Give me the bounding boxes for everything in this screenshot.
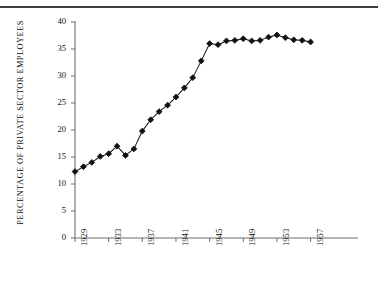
y-tick-label: 35 bbox=[44, 43, 66, 53]
x-tick-label: 1949 bbox=[247, 229, 257, 246]
y-tick-label: 40 bbox=[44, 16, 66, 26]
data-point-marker bbox=[81, 164, 87, 170]
data-point-marker bbox=[266, 34, 272, 40]
y-tick-label: 10 bbox=[44, 178, 66, 188]
data-point-marker bbox=[282, 35, 288, 41]
data-point-marker bbox=[240, 36, 246, 42]
x-tick-label: 1957 bbox=[315, 229, 325, 246]
x-tick-label: 1953 bbox=[281, 229, 291, 246]
data-point-marker bbox=[291, 37, 297, 43]
data-point-marker bbox=[274, 32, 280, 38]
data-point-marker bbox=[72, 169, 78, 175]
data-point-marker bbox=[215, 42, 221, 48]
data-point-marker bbox=[224, 38, 230, 44]
x-tick-label: 1945 bbox=[214, 229, 224, 246]
y-tick-label: 0 bbox=[44, 232, 66, 242]
data-point-marker bbox=[299, 37, 305, 43]
x-tick-label: 1937 bbox=[146, 229, 156, 246]
y-tick-label: 5 bbox=[44, 205, 66, 215]
x-tick-label: 1929 bbox=[79, 229, 89, 246]
data-point-marker bbox=[232, 37, 238, 43]
line-chart: PERCENTAGE OF PRIVATE SECTOR EMPLOYEES 0… bbox=[0, 0, 378, 281]
y-tick-label: 20 bbox=[44, 124, 66, 134]
y-tick-label: 15 bbox=[44, 151, 66, 161]
x-tick-label: 1933 bbox=[113, 229, 123, 246]
data-point-marker bbox=[257, 37, 263, 43]
data-point-marker bbox=[308, 39, 314, 45]
x-tick-label: 1941 bbox=[180, 229, 190, 246]
y-tick-label: 25 bbox=[44, 97, 66, 107]
data-point-marker bbox=[249, 38, 255, 44]
data-point-marker bbox=[198, 58, 204, 64]
chart-figure: PERCENTAGE OF PRIVATE SECTOR EMPLOYEES 0… bbox=[0, 0, 378, 281]
y-tick-label: 30 bbox=[44, 70, 66, 80]
data-point-marker bbox=[207, 41, 213, 47]
series-line bbox=[75, 35, 311, 172]
